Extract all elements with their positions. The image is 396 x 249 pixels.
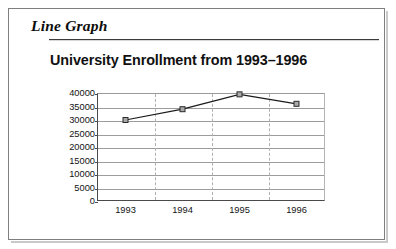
series-line <box>126 94 297 120</box>
chart-title: University Enrollment from 1993–1996 <box>50 52 307 68</box>
data-point-marker <box>123 118 128 123</box>
section-heading: Line Graph <box>31 17 108 35</box>
x-tick-label: 1995 <box>229 205 250 215</box>
y-tick-label: 20000 <box>59 142 95 152</box>
series-markers <box>123 92 299 123</box>
series-layer <box>97 93 325 201</box>
y-tick-label: 15000 <box>59 156 95 166</box>
x-tick-label: 1994 <box>172 205 193 215</box>
screenshot-root: Line Graph University Enrollment from 19… <box>0 0 396 249</box>
figure-card: Line Graph University Enrollment from 19… <box>8 8 385 240</box>
y-tick-label: 0 <box>59 196 95 206</box>
y-tick-label: 40000 <box>59 88 95 98</box>
y-tick-label: 10000 <box>59 169 95 179</box>
y-tick-mark <box>95 202 98 203</box>
card-shadow-bottom <box>11 241 388 243</box>
data-point-marker <box>237 92 242 97</box>
data-point-marker <box>180 107 185 112</box>
x-axis-labels: 1993199419951996 <box>97 205 325 219</box>
card-shadow-right <box>386 11 388 243</box>
heading-divider <box>49 39 379 41</box>
y-tick-label: 5000 <box>59 183 95 193</box>
data-point-marker <box>294 101 299 106</box>
y-tick-label: 35000 <box>59 102 95 112</box>
y-axis-labels: 4000035000300002500020000150001000050000 <box>59 89 95 209</box>
x-tick-label: 1996 <box>286 205 307 215</box>
line-chart: 4000035000300002500020000150001000050000… <box>59 89 334 224</box>
y-tick-label: 30000 <box>59 115 95 125</box>
x-tick-label: 1993 <box>115 205 136 215</box>
y-tick-label: 25000 <box>59 129 95 139</box>
